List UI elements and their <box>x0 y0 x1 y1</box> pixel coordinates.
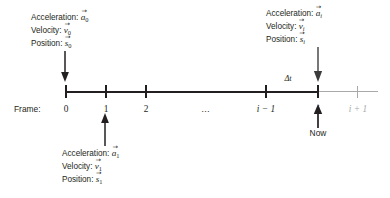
tick-frame-0 <box>65 85 67 98</box>
tick-label-ellipsis: … <box>201 104 211 114</box>
acceleration-label: Acceleration: <box>62 149 109 158</box>
vector-arrow-accent-icon: → <box>96 170 102 177</box>
annotation-frame-1-position: Position: →s1 <box>62 174 119 187</box>
subscript: 1 <box>116 152 119 159</box>
subscript: 0 <box>85 16 88 23</box>
annotation-frame-i-position: Position: →si <box>266 34 322 47</box>
pointer-arrow-up-frame-1 <box>99 112 111 146</box>
velocity-label: Velocity: <box>62 162 93 171</box>
annotation-frame-1: Acceleration: →a1 Velocity: →v1 Position… <box>62 148 119 188</box>
position-vector-symbol: →s1 <box>96 174 103 187</box>
velocity-label: Velocity: <box>266 22 297 31</box>
position-label: Position: <box>266 35 297 44</box>
annotation-frame-i-velocity: Velocity: →vi <box>266 21 322 34</box>
vector-arrow-accent-icon: → <box>81 8 87 15</box>
vector-arrow-accent-icon: → <box>299 17 305 24</box>
tick-frame-2 <box>145 85 147 98</box>
vector-arrow-accent-icon: → <box>112 144 118 151</box>
position-label: Position: <box>62 175 93 184</box>
pointer-arrow-down-frame-0 <box>59 51 71 83</box>
annotation-frame-0-velocity: Velocity: →v0 <box>31 25 88 38</box>
annotation-frame-0-acceleration: Acceleration: →a0 <box>31 12 88 25</box>
acceleration-label: Acceleration: <box>31 13 78 22</box>
timeline-axis-future <box>318 91 378 92</box>
delta-t-label: Δt <box>284 74 291 83</box>
annotation-frame-1-velocity: Velocity: →v1 <box>62 161 119 174</box>
vector-arrow-accent-icon: → <box>65 34 71 41</box>
position-label: Position: <box>31 39 62 48</box>
annotation-frame-0: Acceleration: →a0 Velocity: →v0 Position… <box>31 12 88 52</box>
tick-label-frame-i-minus-1: i − 1 <box>257 104 275 114</box>
tick-label-frame-0: 0 <box>64 104 69 114</box>
acceleration-label: Acceleration: <box>266 9 313 18</box>
acceleration-vector-symbol: →a0 <box>81 12 89 25</box>
annotation-frame-1-acceleration: Acceleration: →a1 <box>62 148 119 161</box>
vector-arrow-accent-icon: → <box>299 30 305 37</box>
subscript: i <box>303 38 305 45</box>
acceleration-vector-symbol: →a1 <box>112 148 120 161</box>
vector-arrow-accent-icon: → <box>95 157 101 164</box>
pointer-arrow-down-frame-i <box>312 47 324 83</box>
tick-frame-i-plus-1 <box>357 86 358 98</box>
frame-row-label: Frame: <box>14 104 41 114</box>
velocity-label: Velocity: <box>31 26 62 35</box>
subscript: 0 <box>68 42 71 49</box>
acceleration-vector-symbol: →ai <box>316 8 322 21</box>
now-label: Now <box>310 128 327 138</box>
now-pointer-arrow-up <box>312 104 324 128</box>
vector-arrow-accent-icon: → <box>316 4 322 11</box>
tick-frame-i-minus-1 <box>265 85 267 98</box>
subscript: i <box>320 12 322 19</box>
subscript: 1 <box>99 178 102 185</box>
timeline-diagram: Acceleration: →a0 Velocity: →v0 Position… <box>0 0 390 198</box>
tick-label-frame-i-plus-1: i + 1 <box>349 104 367 114</box>
position-vector-symbol: →s0 <box>65 38 72 51</box>
position-vector-symbol: →si <box>300 34 305 47</box>
vector-arrow-accent-icon: → <box>64 21 70 28</box>
annotation-frame-i-acceleration: Acceleration: →ai <box>266 8 322 21</box>
timeline-axis-past <box>65 91 318 93</box>
tick-frame-i <box>317 85 319 98</box>
annotation-frame-0-position: Position: →s0 <box>31 38 88 51</box>
tick-frame-1 <box>105 85 107 98</box>
annotation-frame-i: Acceleration: →ai Velocity: →vi Position… <box>266 8 322 48</box>
tick-label-frame-2: 2 <box>144 104 149 114</box>
